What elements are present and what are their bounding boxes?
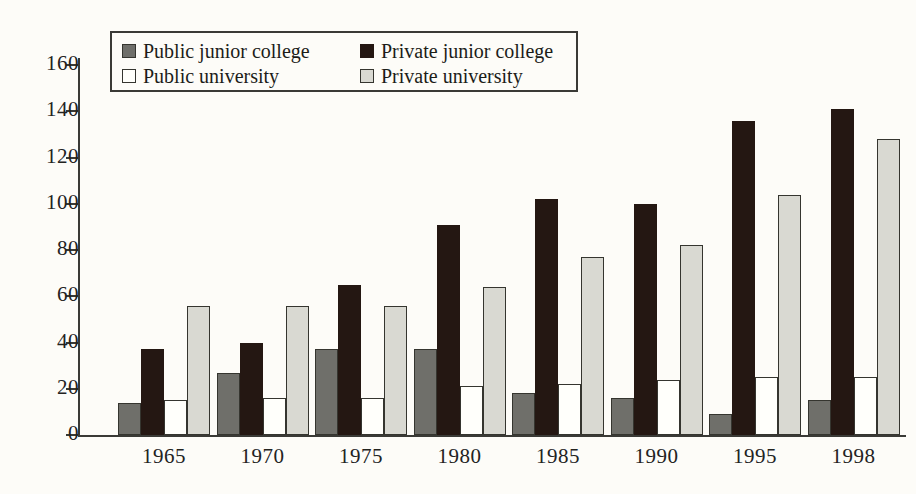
y-tick-100: 100 [0,203,79,205]
bar-1985-series-2 [558,384,581,435]
bar-1985-series-1 [535,199,558,435]
bar-group-1998 [808,55,900,435]
bar-1998-series-3 [877,139,900,435]
bar-1970-series-1 [240,343,263,436]
bar-group-1985 [512,55,604,435]
legend-item-private-junior-college: Private junior college [360,40,553,62]
bar-1990-series-2 [657,380,680,436]
bar-1965-series-2 [164,400,187,435]
bar-1980-series-3 [483,287,506,435]
bar-1980-series-1 [437,225,460,435]
y-tick-160: 160 [0,64,79,66]
legend-swatch-public-university [122,69,136,83]
y-tick-label: 40 [21,331,79,352]
y-tick-label: 20 [21,377,79,398]
bar-1975-series-3 [384,306,407,436]
bar-1990-series-3 [680,245,703,435]
y-tick-140: 140 [0,110,79,112]
legend-row-1: Public junior college Private junior col… [122,38,566,63]
bar-1965-series-0 [118,403,141,435]
y-tick-20: 20 [0,388,79,390]
bar-1985-series-3 [581,257,604,435]
bar-1990-series-1 [634,204,657,435]
y-tick-0: 0 [0,434,79,436]
bar-1975-series-2 [361,398,384,435]
x-axis-label-1998: 1998 [794,444,914,468]
bar-1970-series-3 [286,306,309,436]
y-tick-label: 80 [21,238,79,259]
legend-item-private-university: Private university [360,65,523,87]
bar-1998-series-0 [808,400,831,435]
y-tick-60: 60 [0,295,79,297]
bar-group-1990 [611,55,703,435]
legend-row-2: Public university Private university [122,63,566,88]
bar-1970-series-0 [217,373,240,435]
bar-chart: 020406080100120140160 196519701975198019… [0,0,916,494]
bar-1980-series-0 [414,349,437,435]
bar-group-1970 [217,55,309,435]
bar-group-1995 [709,55,801,435]
legend-item-public-junior-college: Public junior college [122,40,360,62]
bar-1995-series-1 [732,121,755,436]
legend-label-private-university: Private university [381,65,523,87]
legend-label-private-junior-college: Private junior college [381,40,553,62]
bar-group-1975 [315,55,407,435]
legend-label-public-university: Public university [143,65,279,87]
bar-group-1965 [118,55,210,435]
y-tick-label: 60 [21,284,79,305]
bar-1980-series-2 [460,386,483,435]
bar-1965-series-3 [187,306,210,436]
bar-1975-series-1 [338,285,361,435]
x-axis-line [78,435,906,437]
bar-1965-series-1 [141,349,164,435]
legend-label-public-junior-college: Public junior college [143,40,310,62]
y-tick-label: 0 [21,423,79,444]
y-tick-80: 80 [0,249,79,251]
y-tick-40: 40 [0,342,79,344]
y-tick-label: 160 [21,53,79,74]
y-tick-label: 140 [21,99,79,120]
legend-item-public-university: Public university [122,65,360,87]
bar-1970-series-2 [263,398,286,435]
bar-1995-series-2 [755,377,778,435]
legend-swatch-public-junior-college [122,44,136,58]
bar-1995-series-0 [709,414,732,435]
bar-1985-series-0 [512,393,535,435]
legend-swatch-private-junior-college [360,44,374,58]
bar-1998-series-2 [854,377,877,435]
bar-1990-series-0 [611,398,634,435]
bar-1975-series-0 [315,349,338,435]
y-tick-label: 100 [21,192,79,213]
y-tick-120: 120 [0,157,79,159]
bar-group-1980 [414,55,506,435]
chart-legend: Public junior college Private junior col… [110,31,578,92]
bar-1998-series-1 [831,109,854,435]
legend-swatch-private-university [360,69,374,83]
y-tick-label: 120 [21,146,79,167]
bar-1995-series-3 [778,195,801,436]
